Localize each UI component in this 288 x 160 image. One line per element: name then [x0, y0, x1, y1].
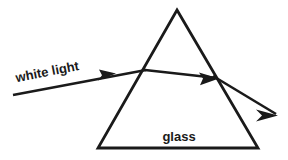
- exiting-refracted-ray: [213, 76, 276, 114]
- diagram-canvas: white light glass: [0, 0, 288, 160]
- glass-label: glass: [162, 129, 195, 144]
- white-light-label: white light: [13, 58, 81, 85]
- glass-prism-triangle: [98, 10, 258, 148]
- exit-ray-arrowhead-icon: [256, 110, 278, 122]
- prism-refraction-diagram: white light glass: [0, 0, 288, 160]
